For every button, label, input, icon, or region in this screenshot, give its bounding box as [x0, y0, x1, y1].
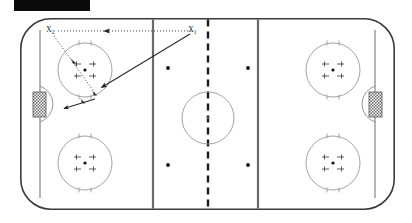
goal-net-right	[369, 92, 382, 117]
goal-net-left	[33, 92, 46, 117]
player-label-x1: X1	[188, 26, 197, 34]
player-label-x1-sub: 1	[194, 29, 197, 35]
neutral-dot-top-left	[166, 66, 170, 70]
player-label-x2-text: X	[46, 25, 52, 34]
center-faceoff-dot	[207, 117, 210, 120]
neutral-dot-bottom-right	[246, 163, 250, 167]
player-label-x2: X2	[46, 26, 55, 34]
neutral-dot-top-right	[246, 66, 250, 70]
player-label-x2-sub: 2	[52, 29, 55, 35]
hockey-rink-diagram	[0, 0, 412, 223]
neutral-dot-bottom-left	[166, 163, 170, 167]
diagram-canvas: X2 X1	[0, 0, 412, 223]
player-label-x1-text: X	[188, 25, 194, 34]
